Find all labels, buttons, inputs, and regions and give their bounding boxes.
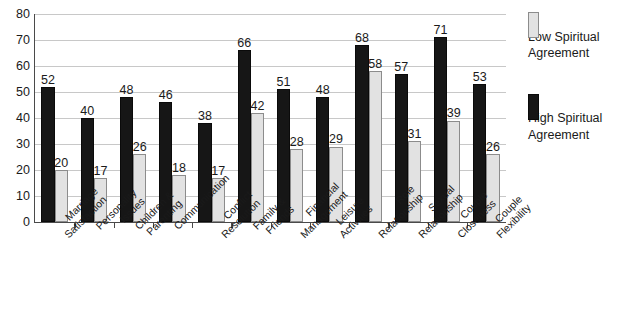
bar-value-label: 40 <box>80 105 94 118</box>
bar-value-label: 31 <box>408 128 422 141</box>
bar-value-label: 48 <box>120 84 134 97</box>
bar-value-label: 42 <box>251 100 265 113</box>
bar-group: 6642 <box>231 14 270 222</box>
bar-value-label: 68 <box>355 32 369 45</box>
bar-value-label: 26 <box>133 141 147 154</box>
bar-value-label: 18 <box>172 162 186 175</box>
y-tick-label: 80 <box>0 8 30 21</box>
chart-legend: Low SpiritualAgreementHigh SpiritualAgre… <box>528 10 640 173</box>
y-tick-label: 10 <box>0 190 30 203</box>
legend-item[interactable]: Low SpiritualAgreement <box>528 10 640 62</box>
bar-value-label: 71 <box>434 24 448 37</box>
bar-value-label: 38 <box>198 110 212 123</box>
bar-value-label: 51 <box>277 76 291 89</box>
bar-value-label: 48 <box>316 84 330 97</box>
bar-value-label: 66 <box>237 37 251 50</box>
legend-label-line: Agreement <box>528 45 640 62</box>
bar-value-label: 46 <box>159 89 173 102</box>
y-tick-label: 0 <box>0 216 30 229</box>
bar-value-label: 28 <box>290 136 304 149</box>
legend-label-line: Low Spiritual <box>528 29 640 46</box>
bar-value-label: 20 <box>54 157 68 170</box>
bar-value-label: 26 <box>486 141 500 154</box>
y-tick-label: 50 <box>0 86 30 99</box>
legend-item[interactable]: High SpiritualAgreement <box>528 92 640 144</box>
bar-low-spiritual-agreement[interactable]: 58 <box>369 71 382 222</box>
bar-group: 5326 <box>467 14 506 222</box>
bar-group: 6858 <box>349 14 388 222</box>
legend-label-line: Agreement <box>528 127 640 144</box>
bar-group: 5220 <box>35 14 74 222</box>
bar-high-spiritual-agreement[interactable]: 52 <box>41 87 54 222</box>
y-tick-label: 40 <box>0 112 30 125</box>
plot-wrapper: 80706050403020100 5220401748264618381766… <box>0 0 512 240</box>
bar-value-label: 39 <box>447 107 461 120</box>
y-tick-label: 30 <box>0 138 30 151</box>
bar-value-label: 57 <box>394 61 408 74</box>
y-tick-label: 20 <box>0 164 30 177</box>
bar-group: 5128 <box>271 14 310 222</box>
bar-value-label: 29 <box>329 133 343 146</box>
bar-value-label: 53 <box>473 71 487 84</box>
low-spiritual-agreement-swatch <box>528 12 539 38</box>
bars-layer: 5220401748264618381766425128482968585731… <box>35 14 506 222</box>
legend-label: Low SpiritualAgreement <box>528 29 640 62</box>
plot-area: 5220401748264618381766425128482968585731… <box>34 14 506 223</box>
bar-value-label: 52 <box>41 74 55 87</box>
grouped-bar-chart: 80706050403020100 5220401748264618381766… <box>0 0 640 327</box>
high-spiritual-agreement-swatch <box>528 94 539 120</box>
bar-value-label: 17 <box>94 165 108 178</box>
y-tick-label: 60 <box>0 60 30 73</box>
y-axis: 80706050403020100 <box>0 0 30 240</box>
legend-label: High SpiritualAgreement <box>528 110 640 143</box>
bar-group: 4618 <box>153 14 192 222</box>
bar-value-label: 58 <box>368 58 382 71</box>
legend-label-line: High Spiritual <box>528 110 640 127</box>
x-axis-category-labels: MarriageSatisfactionPersonalityIssuesChi… <box>34 224 505 327</box>
y-tick-label: 70 <box>0 34 30 47</box>
